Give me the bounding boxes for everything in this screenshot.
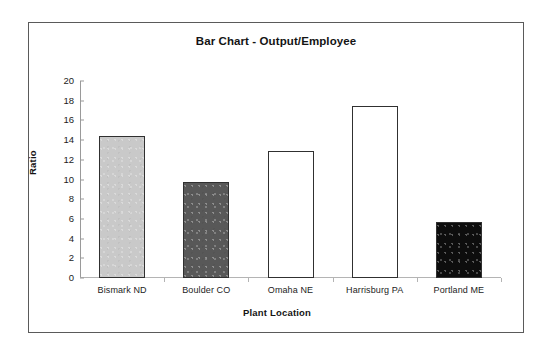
- y-axis-tick-label: 4: [44, 234, 74, 244]
- y-axis-tick-mark: [80, 159, 84, 160]
- y-axis-tick-label: 6: [44, 214, 74, 224]
- y-axis-tick-mark: [80, 199, 84, 200]
- bar-portland-me: [436, 222, 482, 278]
- y-axis-tick-mark: [80, 218, 84, 219]
- y-axis-tick-label: 16: [44, 116, 74, 126]
- y-axis-tick-label: 8: [44, 194, 74, 204]
- x-axis-tick-mark: [501, 278, 502, 282]
- x-axis-title: Plant Location: [29, 307, 525, 318]
- y-axis-tick-label: 18: [44, 96, 74, 106]
- y-axis-tick-label: 2: [44, 254, 74, 264]
- y-axis-tick-label: 0: [44, 273, 74, 283]
- x-axis-tick-mark: [417, 278, 418, 282]
- y-axis-tick-label: 20: [44, 76, 74, 86]
- chart-title: Bar Chart - Output/Employee: [29, 35, 523, 47]
- y-axis-tick-mark: [80, 100, 84, 101]
- x-axis-tick-label: Boulder CO: [164, 285, 248, 295]
- x-axis-tick-label: Portland ME: [417, 285, 501, 295]
- y-axis-tick-mark: [80, 238, 84, 239]
- chart-frame: Bar Chart - Output/Employee Ratio 201816…: [28, 22, 524, 333]
- y-axis-title: Ratio: [27, 150, 38, 175]
- bar-fill-texture: [100, 137, 144, 277]
- bar-boulder-co: [183, 182, 229, 278]
- x-axis-tick-label: Harrisburg PA: [333, 285, 417, 295]
- x-axis-tick-mark: [248, 278, 249, 282]
- y-axis-tick-mark: [80, 120, 84, 121]
- plot-area: 20181614121086420 Bismark NDBoulder COOm…: [80, 79, 501, 278]
- bar-omaha-ne: [268, 151, 314, 278]
- y-axis-tick-mark: [80, 140, 84, 141]
- y-axis-tick-mark: [80, 258, 84, 259]
- y-axis-tick-label: 14: [44, 135, 74, 145]
- y-axis-tick-label: 10: [44, 175, 74, 185]
- bar-bismark-nd: [99, 136, 145, 278]
- bar-fill-texture: [437, 223, 481, 277]
- x-axis-tick-label: Bismark ND: [80, 285, 164, 295]
- y-axis-tick-mark: [80, 81, 84, 82]
- bar-harrisburg-pa: [352, 106, 398, 278]
- bar-fill-texture: [184, 183, 228, 277]
- x-axis-tick-label: Omaha NE: [248, 285, 332, 295]
- y-axis-tick-label: 12: [44, 155, 74, 165]
- x-axis-tick-mark: [164, 278, 165, 282]
- y-axis-tick-mark: [80, 278, 84, 279]
- y-axis-tick-mark: [80, 179, 84, 180]
- x-axis-tick-mark: [333, 278, 334, 282]
